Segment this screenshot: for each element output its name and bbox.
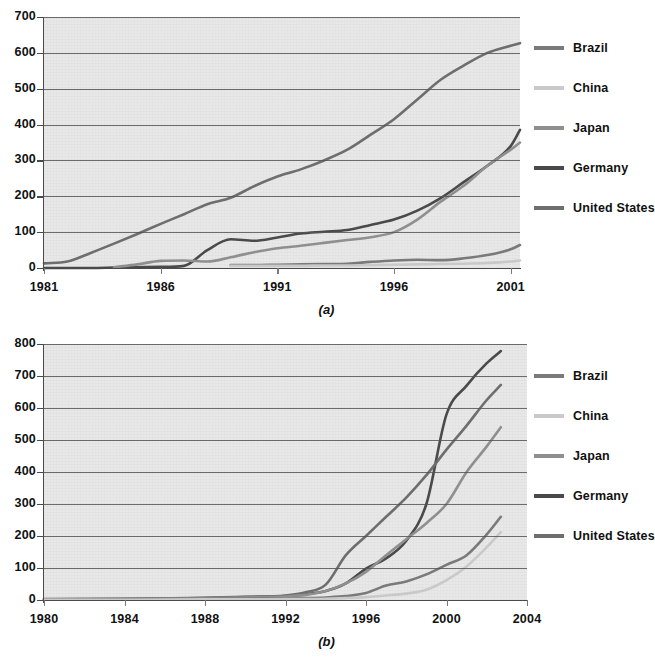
legend-item-brazil[interactable]: Brazil <box>534 368 608 384</box>
legend-item-brazil[interactable]: Brazil <box>534 40 608 56</box>
x-axis-tick-label: 1988 <box>175 612 235 626</box>
x-axis-tick-label: 1980 <box>14 612 74 626</box>
x-axis-tick-label: 1992 <box>256 612 316 626</box>
legend-label: Germany <box>573 489 628 503</box>
legend-label: China <box>573 81 608 95</box>
y-axis-tick-label: 300 <box>0 152 36 166</box>
legend-label: Brazil <box>573 369 608 383</box>
gridline-y <box>44 125 520 126</box>
gridline-y <box>44 568 527 569</box>
legend-label: China <box>573 409 608 423</box>
legend-swatch-icon <box>534 414 564 417</box>
gridline-y <box>44 89 520 90</box>
series-line-china <box>44 532 501 600</box>
x-axis-tick-label: 2004 <box>497 612 557 626</box>
chart-panel-a: 0100200300400500600700198119861991199620… <box>0 0 653 330</box>
y-axis-tick-label: 100 <box>0 560 36 574</box>
y-axis-tick-label: 600 <box>0 400 36 414</box>
legend-item-china[interactable]: China <box>534 408 608 424</box>
tick-x <box>277 268 278 274</box>
x-axis-tick-label: 2000 <box>417 612 477 626</box>
panel-caption-b: (b) <box>0 634 653 649</box>
tick-x <box>125 600 126 606</box>
gridline-y <box>44 344 527 345</box>
y-axis-tick-label: 700 <box>0 9 36 23</box>
y-axis-tick-label: 500 <box>0 81 36 95</box>
legend-label: Brazil <box>573 41 608 55</box>
plot-area-a <box>44 17 520 268</box>
tick-x <box>527 600 528 606</box>
x-axis-tick-label: 1991 <box>247 280 307 294</box>
tick-x <box>511 268 512 274</box>
y-axis-line <box>43 344 44 603</box>
y-axis-tick-label: 400 <box>0 117 36 131</box>
gridline-y <box>44 376 527 377</box>
tick-x <box>394 268 395 274</box>
legend-swatch-icon <box>534 206 564 209</box>
legend-swatch-icon <box>534 534 564 537</box>
series-line-united-states <box>44 43 520 263</box>
y-axis-tick-label: 700 <box>0 368 36 382</box>
gridline-y <box>44 408 527 409</box>
gridline-y <box>44 536 527 537</box>
series-line-germany <box>44 351 501 599</box>
y-axis-tick-label: 500 <box>0 432 36 446</box>
y-axis-line <box>43 17 44 271</box>
y-axis-tick-label: 0 <box>0 592 36 606</box>
legend-item-germany[interactable]: Germany <box>534 160 628 176</box>
x-axis-tick-label: 1996 <box>336 612 396 626</box>
y-axis-tick-label: 400 <box>0 464 36 478</box>
x-axis-tick-label: 1996 <box>364 280 424 294</box>
legend-label: Japan <box>573 449 610 463</box>
panel-caption-a: (a) <box>0 302 653 317</box>
tick-x <box>205 600 206 606</box>
legend-swatch-icon <box>534 374 564 377</box>
tick-x <box>447 600 448 606</box>
legend-item-china[interactable]: China <box>534 80 608 96</box>
legend-label: Germany <box>573 161 628 175</box>
x-axis-line <box>43 268 521 269</box>
gridline-y <box>44 504 527 505</box>
legend-swatch-icon <box>534 166 564 169</box>
tick-x <box>366 600 367 606</box>
legend-swatch-icon <box>534 126 564 129</box>
gridline-y <box>44 232 520 233</box>
x-axis-tick-label: 1986 <box>131 280 191 294</box>
legend-label: United States <box>573 529 655 543</box>
tick-x <box>44 268 45 274</box>
gridline-y <box>44 53 520 54</box>
legend-item-japan[interactable]: Japan <box>534 448 610 464</box>
x-axis-tick-label: 1981 <box>14 280 74 294</box>
series-line-japan <box>44 427 501 599</box>
legend-label: Japan <box>573 121 610 135</box>
y-axis-tick-label: 100 <box>0 224 36 238</box>
legend-item-germany[interactable]: Germany <box>534 488 628 504</box>
y-axis-tick-label: 800 <box>0 336 36 350</box>
legend-item-united-states[interactable]: United States <box>534 528 655 544</box>
gridline-y <box>44 160 520 161</box>
gridline-y <box>44 17 520 18</box>
tick-x <box>161 268 162 274</box>
legend-swatch-icon <box>534 454 564 457</box>
tick-x <box>44 600 45 606</box>
legend-swatch-icon <box>534 86 564 89</box>
legend-label: United States <box>573 201 655 215</box>
legend-item-united-states[interactable]: United States <box>534 200 655 216</box>
chart-panel-b: 0100200300400500600700800198019841988199… <box>0 328 653 658</box>
y-axis-tick-label: 600 <box>0 45 36 59</box>
legend-item-japan[interactable]: Japan <box>534 120 610 136</box>
legend-swatch-icon <box>534 494 564 497</box>
legend-swatch-icon <box>534 46 564 49</box>
y-axis-tick-label: 200 <box>0 528 36 542</box>
x-axis-tick-label: 1984 <box>95 612 155 626</box>
tick-x <box>286 600 287 606</box>
gridline-y <box>44 440 527 441</box>
y-axis-tick-label: 300 <box>0 496 36 510</box>
gridline-y <box>44 196 520 197</box>
series-lines-a <box>44 17 520 268</box>
series-line-united-states <box>44 385 501 599</box>
y-axis-tick-label: 0 <box>0 260 36 274</box>
x-axis-tick-label: 2001 <box>481 280 541 294</box>
y-axis-tick-label: 200 <box>0 188 36 202</box>
